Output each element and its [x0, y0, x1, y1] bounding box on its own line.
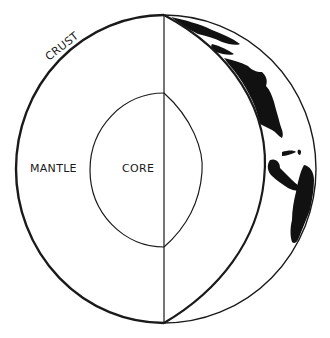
- core-label: CORE: [122, 162, 154, 175]
- earth-diagram: CRUST MANTLE CORE: [0, 0, 330, 338]
- continent-central-america: [268, 159, 302, 190]
- island-1: [282, 151, 296, 157]
- mantle-label: MANTLE: [30, 162, 77, 175]
- island-2: [298, 150, 301, 155]
- earth-cross-section: CRUST MANTLE CORE: [0, 0, 330, 338]
- mantle-cut-arc: [164, 15, 265, 323]
- globe-outline-right: [164, 15, 316, 323]
- core-cut-arc: [164, 93, 202, 247]
- continent-greenland: [211, 44, 234, 55]
